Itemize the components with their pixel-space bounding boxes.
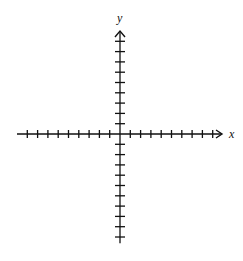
y-axis-label: y (116, 11, 123, 25)
x-axis-label: x (228, 127, 235, 141)
y-axis (115, 31, 125, 243)
coordinate-axes: x y (0, 0, 243, 261)
